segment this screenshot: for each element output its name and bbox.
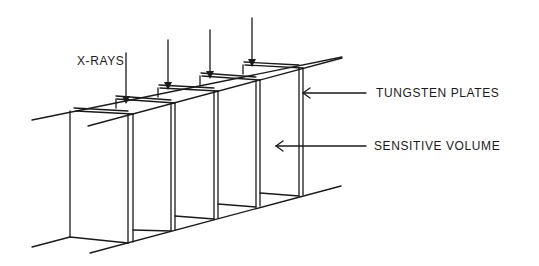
sensitive-volume-label: SENSITIVE VOLUME: [374, 140, 500, 152]
xrays-label: X-RAYS: [77, 55, 124, 67]
detector-drawing: [0, 0, 539, 266]
bottom-back-rail: [32, 237, 70, 247]
tungsten-plates-label: TUNGSTEN PLATES: [376, 87, 499, 99]
